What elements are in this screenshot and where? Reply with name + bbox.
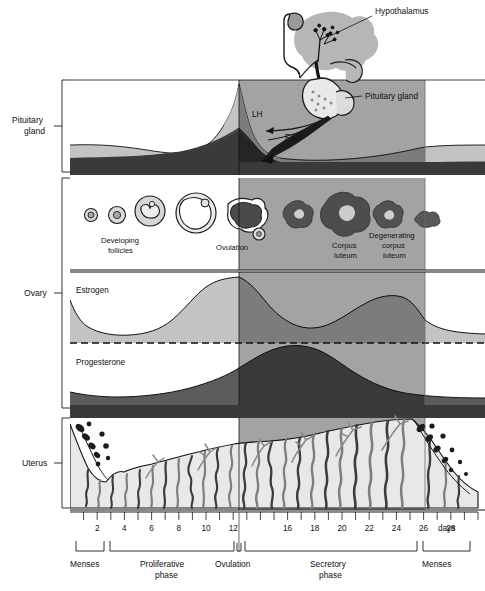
corpus-albicans bbox=[415, 211, 440, 227]
side-label-ovary: Ovary bbox=[24, 288, 48, 298]
axis-label-day-18: 18 bbox=[310, 524, 320, 533]
optic-chiasm bbox=[288, 13, 303, 30]
side-label-pituitary-line1: Pituitary bbox=[12, 115, 44, 125]
developing-follicles-label-line2: follicles bbox=[108, 246, 133, 255]
developing-follicles-label-line1: Developing bbox=[101, 236, 139, 245]
phase-ovulation: Ovulation bbox=[215, 559, 251, 569]
degenerating-cl-label-line3: luteum bbox=[383, 251, 406, 260]
axis-label-day-26: 26 bbox=[419, 524, 429, 533]
axis-label-day-24: 24 bbox=[392, 524, 402, 533]
pituitary-gland-label: Pituitary gland bbox=[365, 91, 418, 101]
axis-unit-label: days bbox=[438, 524, 455, 533]
axis-label-day-20: 20 bbox=[337, 524, 347, 533]
side-label-uterus: Uterus bbox=[22, 458, 47, 468]
axis-label-day-10: 10 bbox=[201, 524, 211, 533]
panel-ovarian-hormones: Estrogen Progesterone bbox=[70, 272, 485, 418]
figure-canvas: Hypothalamus Pituitary gland LH FSH bbox=[0, 0, 485, 591]
panel-ovary-follicles: Developing follicles Ovulation Corpus lu… bbox=[70, 178, 485, 270]
axis-label-day-16: 16 bbox=[283, 524, 293, 533]
ovulation-label: Ovulation bbox=[216, 243, 248, 252]
hypothalamus-label: Hypothalamus bbox=[375, 6, 429, 16]
axis-label-day-12: 12 bbox=[229, 524, 239, 533]
phase-proliferative-line2: phase bbox=[155, 570, 178, 580]
degenerating-cl-label-line2: corpus bbox=[382, 241, 405, 250]
corpus-luteum-label-line1: Corpus bbox=[332, 241, 357, 250]
follicle-mature-graafian bbox=[176, 193, 216, 233]
panel-uterus bbox=[70, 416, 485, 510]
corpus-luteum-label-line2: luteum bbox=[334, 251, 357, 260]
axis-label-day-22: 22 bbox=[365, 524, 375, 533]
progesterone-label: Progesterone bbox=[76, 358, 126, 367]
luteal-shading-hormones bbox=[239, 272, 425, 412]
panel-pituitary bbox=[70, 80, 485, 175]
axis-label-day-6: 6 bbox=[149, 524, 154, 533]
axis-label-day-4: 4 bbox=[122, 524, 127, 533]
hormone-base-band bbox=[70, 405, 485, 418]
degenerating-cl-label-line1: Degenerating bbox=[369, 231, 415, 240]
axis-label-day-2: 2 bbox=[95, 524, 100, 533]
phase-secretory-line1: Secretory bbox=[310, 559, 347, 569]
phase-menses-start-line1: Menses bbox=[70, 559, 99, 569]
follicle-primordial bbox=[85, 209, 98, 222]
fsh-label: FSH bbox=[285, 133, 301, 142]
phase-menses-end: Menses bbox=[422, 559, 451, 569]
estrogen-label: Estrogen bbox=[76, 286, 109, 295]
follicle-primary bbox=[109, 207, 126, 224]
axis-label-day-8: 8 bbox=[177, 524, 182, 533]
follicle-secondary bbox=[135, 196, 165, 226]
side-label-pituitary-line2: gland bbox=[24, 126, 45, 136]
lh-label: LH bbox=[252, 110, 263, 119]
phase-secretory-line2: phase bbox=[319, 570, 342, 580]
phase-proliferative-line1: Proliferative bbox=[140, 559, 185, 569]
menstrual-cycle-diagram: Hypothalamus Pituitary gland LH FSH bbox=[0, 0, 485, 591]
posterior-pituitary bbox=[336, 91, 354, 116]
